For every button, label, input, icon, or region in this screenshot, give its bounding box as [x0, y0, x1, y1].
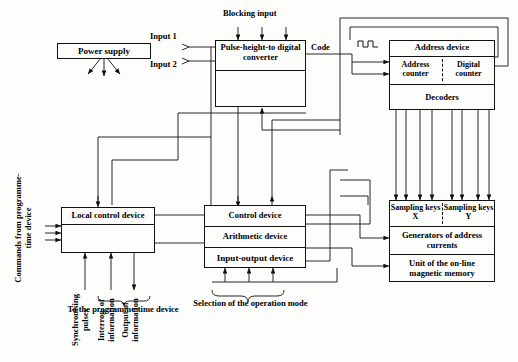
blocking-input-label: Blocking input: [223, 9, 277, 19]
control-device-segment[interactable]: Control device: [204, 205, 306, 226]
decoders-segment[interactable]: Decoders: [389, 85, 495, 110]
block-diagram: Power supply Pulse-height-to digital con…: [0, 0, 518, 362]
local-control-divider: [61, 224, 155, 225]
code-label: Code: [311, 43, 330, 53]
converter-inner-divider: [215, 70, 306, 71]
digital-counter-segment[interactable]: Digital counter: [442, 57, 495, 83]
memory-unit-segment[interactable]: Unit of the on-line magnetic memory: [389, 255, 495, 282]
input-output-device-segment[interactable]: Input-output device: [204, 248, 306, 268]
pulse-height-converter-block[interactable]: Pulse-height-to digital converter: [215, 40, 306, 107]
input-1-label: Input 1: [150, 32, 177, 42]
output-of-information-label: Output of information: [121, 285, 140, 355]
sampling-keys-y-segment[interactable]: Sampling keys Y: [442, 200, 495, 226]
commands-from-label: Commands from programme-time device: [14, 168, 33, 288]
arithmetic-device-segment[interactable]: Arithmetic device: [204, 227, 306, 247]
power-supply-block[interactable]: Power supply: [57, 43, 151, 59]
selection-of-mode-label: Selection of the operation mode: [193, 299, 308, 309]
input-2-label: Input 2: [150, 60, 177, 70]
local-control-device-title: Local control device: [61, 207, 155, 224]
address-device-title: Address device: [389, 40, 495, 56]
sampling-keys-x-segment[interactable]: Sampling keys X: [389, 200, 442, 226]
address-counter-segment[interactable]: Address counter: [389, 57, 442, 83]
pulse-height-converter-label: Pulse-height-to digital converter: [217, 43, 305, 62]
synchronising-pulses-label: Synchronising pulses: [71, 285, 90, 355]
generators-segment[interactable]: Generators of address currents: [389, 227, 495, 254]
power-supply-label: Power supply: [78, 46, 130, 56]
interrogation-label: Interrog. of information: [97, 285, 116, 355]
